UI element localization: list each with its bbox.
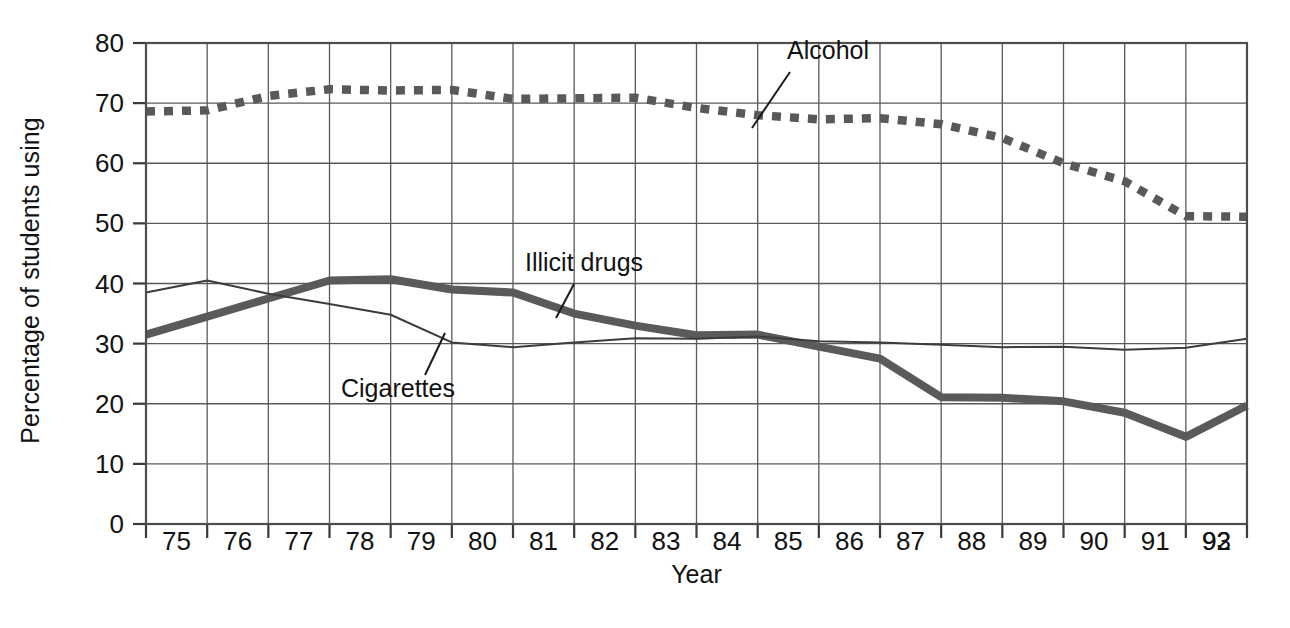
x-tick-label-93: 93 [1202, 526, 1231, 557]
y-tick-label-70: 70 [62, 88, 124, 119]
y-tick-label-40: 40 [62, 268, 124, 299]
x-tick-label-82: 82 [590, 526, 619, 557]
y-tick-label-80: 80 [62, 28, 124, 59]
series-label-alcohol: Alcohol [787, 36, 869, 65]
x-tick-label-76: 76 [223, 526, 252, 557]
x-tick-label-81: 81 [529, 526, 558, 557]
y-tick-label-50: 50 [62, 208, 124, 239]
x-tick-label-87: 87 [896, 526, 925, 557]
series-label-illicit-drugs: Illicit drugs [525, 248, 643, 277]
y-tick-label-60: 60 [62, 148, 124, 179]
x-tick-label-84: 84 [713, 526, 742, 557]
x-tick-label-75: 75 [162, 526, 191, 557]
series-label-cigarettes: Cigarettes [341, 374, 455, 403]
chart-container: Percentage of students using 01020304050… [0, 0, 1290, 628]
x-tick-label-80: 80 [468, 526, 497, 557]
x-tick-label-78: 78 [346, 526, 375, 557]
x-tick-label-91: 91 [1141, 526, 1170, 557]
x-tick-label-89: 89 [1018, 526, 1047, 557]
x-tick-label-88: 88 [957, 526, 986, 557]
x-tick-label-79: 79 [407, 526, 436, 557]
y-tick-label-20: 20 [62, 388, 124, 419]
x-axis-title: Year [146, 560, 1247, 589]
y-tick-label-10: 10 [62, 448, 124, 479]
y-tick-label-30: 30 [62, 328, 124, 359]
leader-line-cigarettes [425, 333, 445, 375]
x-tick-label-77: 77 [284, 526, 313, 557]
x-tick-label-86: 86 [835, 526, 864, 557]
x-tick-label-85: 85 [774, 526, 803, 557]
y-tick-label-0: 0 [62, 509, 124, 540]
x-tick-label-90: 90 [1080, 526, 1109, 557]
x-tick-label-83: 83 [651, 526, 680, 557]
